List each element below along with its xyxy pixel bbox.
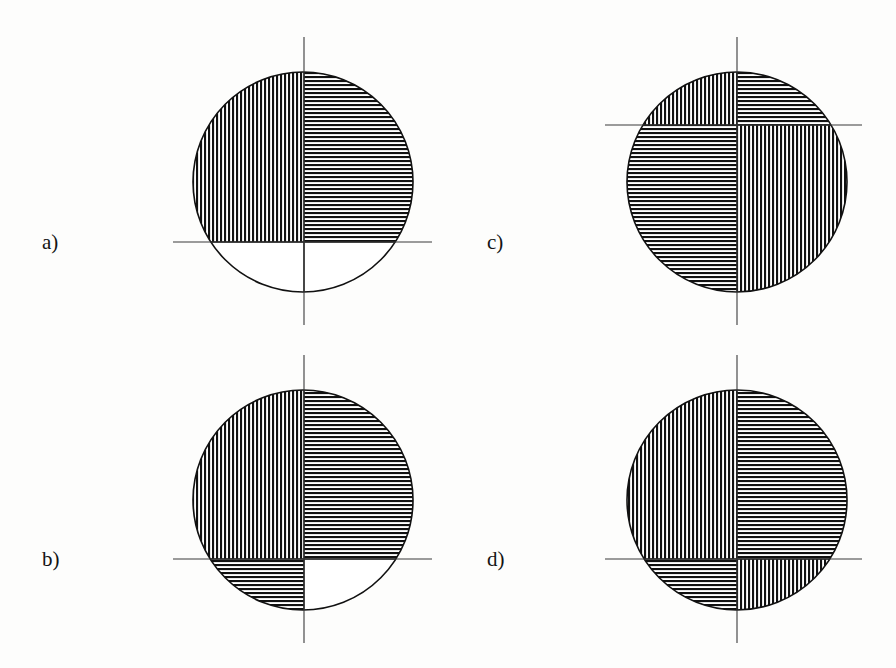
panel-label-b: b) [42, 549, 60, 570]
panel-label-d: d) [487, 549, 505, 570]
panel-b [173, 355, 432, 643]
figure-root: a) b) c) d) [0, 0, 896, 668]
panel-d-quadrant-top-right [737, 386, 851, 559]
panel-d-quadrant-bottom-left [623, 559, 737, 614]
panel-c-quadrant-bottom-left [623, 125, 737, 296]
panel-a-quadrant-top-left [189, 68, 304, 242]
panel-d-quadrant-top-left [623, 386, 737, 559]
panel-d [605, 355, 862, 643]
panel-c-quadrant-top-left [623, 68, 737, 125]
panel-b-quadrant-top-left [189, 386, 304, 559]
panel-label-c: c) [487, 232, 503, 253]
panel-a [173, 37, 432, 325]
panel-c [605, 37, 862, 325]
panel-a-quadrant-top-right [304, 68, 417, 242]
panel-d-quadrant-bottom-right [737, 559, 851, 614]
panel-b-quadrant-top-right [304, 386, 417, 559]
panel-b-quadrant-bottom-left [189, 559, 304, 614]
panel-c-quadrant-top-right [737, 68, 851, 125]
circle-quadrant-figure [0, 0, 896, 668]
panel-c-quadrant-bottom-right [737, 125, 851, 296]
panel-label-a: a) [42, 232, 58, 253]
